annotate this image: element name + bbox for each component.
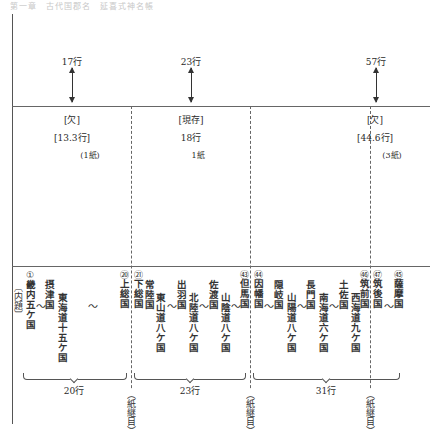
column-settsu: 摂津国 <box>44 280 54 310</box>
column-kinai-text: 畿内五ケ国 <box>25 280 36 330</box>
column-hokurikudo: 北陸道八ケ国 <box>188 293 198 353</box>
double-arrow-icon-1 <box>72 68 73 102</box>
section-2-status: [現存] <box>178 113 203 126</box>
circle-number-1: ① <box>25 270 35 280</box>
section-2-rows: 18行 <box>181 131 201 144</box>
column-satsuma-text: 薩摩国 <box>393 279 404 309</box>
seam-label-2: （紙継目） <box>245 390 255 435</box>
section-3-status: [欠] <box>367 113 383 126</box>
section-3-sheets: (3紙) <box>382 149 401 160</box>
seam-label-1: （紙継目） <box>126 390 136 435</box>
column-inaba-text: 因幡国 <box>253 279 264 309</box>
column-tajima-text: 但馬国 <box>239 279 250 309</box>
circle-number-21: ㉑ <box>133 270 143 279</box>
column-chikugo-text: 筑後国 <box>372 279 383 309</box>
column-chikuzen-text: 筑前国 <box>359 279 370 309</box>
circle-number-57: ㊼ <box>372 270 382 279</box>
section-1-rows: [13.3行] <box>54 131 90 144</box>
column-sanyodo: 山陽道八ケ国 <box>286 293 296 353</box>
double-arrow-icon-2 <box>191 68 192 102</box>
tilde-2: ～ <box>88 298 98 313</box>
column-shimousa-text: 下総国 <box>133 279 144 309</box>
column-tosa: 土佐国 <box>338 280 348 310</box>
bracket-2-label: 23行 <box>180 384 200 397</box>
column-kazusa: ⑳上総国 <box>119 270 129 309</box>
column-tajima: ㊸但馬国 <box>239 270 249 309</box>
bracket-1-label: 20行 <box>64 384 84 397</box>
bracket-3-label: 31行 <box>316 384 336 397</box>
section-1-status: [欠] <box>64 113 80 126</box>
section-2-sheets: 1紙 <box>191 149 204 160</box>
circle-number-56: ㊻ <box>359 270 369 279</box>
section-1-sheets: (1紙) <box>80 149 99 160</box>
column-chikugo: ㊼筑後国 <box>372 270 382 309</box>
seam-line-2 <box>250 106 251 428</box>
column-kinai: ①畿内五ケ国 <box>25 270 35 330</box>
column-tokaido: 東海道十五ケ国 <box>57 293 67 363</box>
column-chikuzen: ㊻筑前国 <box>359 270 369 309</box>
column-kazusa-text: 上総国 <box>119 279 130 309</box>
left-border-line <box>12 14 13 424</box>
column-shimousa: ㉑下総国 <box>133 270 143 309</box>
circle-number-20: ⑳ <box>119 270 129 279</box>
column-tosando: 東山道八ケ国 <box>155 293 165 353</box>
bottom-divider-line <box>12 266 430 267</box>
section-3-rows: [44.6行] <box>357 131 393 144</box>
column-hitachi: 常陸国 <box>144 280 154 310</box>
circle-number-74: ㊺ <box>393 270 403 279</box>
seam-line-1 <box>131 106 132 428</box>
circle-number-44: ㊹ <box>253 270 263 279</box>
column-sado: 佐渡国 <box>208 280 218 310</box>
column-oki: 隠岐国 <box>273 280 283 310</box>
column-nagato: 長門国 <box>305 280 315 310</box>
top-divider-line <box>12 106 430 107</box>
faded-header-text: 第一章 古代国郡名 延喜式神名帳 <box>10 0 154 11</box>
circle-number-43: ㊸ <box>239 270 249 279</box>
seam-label-3: （紙継目） <box>365 390 375 435</box>
double-arrow-icon-3 <box>376 68 377 102</box>
column-satsuma: ㊺薩摩国 <box>393 270 403 309</box>
column-sanindo: 山陰道八ケ国 <box>220 293 230 353</box>
column-inaba: ㊹因幡国 <box>253 270 263 309</box>
column-nankaido: 南海道六ケ国 <box>318 293 328 353</box>
column-naidai: 〔内題〕 <box>13 283 23 319</box>
column-dewa: 出羽国 <box>176 280 186 310</box>
